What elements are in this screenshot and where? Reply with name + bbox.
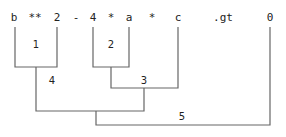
bracket-1: 1 [15,27,57,67]
bracket-2-label: 2 [108,39,114,50]
bracket-4-line [36,67,144,111]
bracket-4: 4 [36,67,144,111]
bracket-3-label: 3 [141,75,147,86]
bracket-1-label: 1 [33,39,39,50]
token-gt: .gt [213,11,233,24]
tokens: b ** 2 - 4 * a * c .gt 0 [11,11,274,24]
bracket-5-label: 5 [179,111,185,122]
token-4: 4 [90,11,97,24]
token-b: b [11,11,18,24]
token-power: ** [28,11,41,24]
token-times-2: * [149,11,156,24]
diagram-svg: b ** 2 - 4 * a * c .gt 0 1 2 3 4 [0,0,286,137]
bracket-3: 3 [111,27,178,88]
token-times-1: * [108,11,115,24]
token-2: 2 [54,11,61,24]
token-c: c [175,11,182,24]
token-a: a [126,11,133,24]
token-0: 0 [267,11,274,24]
token-minus: - [73,11,80,24]
bracket-4-label: 4 [49,75,55,86]
bracket-2: 2 [93,27,129,67]
bracket-5: 5 [96,27,270,125]
expression-tree-diagram: b ** 2 - 4 * a * c .gt 0 1 2 3 4 [0,0,286,137]
